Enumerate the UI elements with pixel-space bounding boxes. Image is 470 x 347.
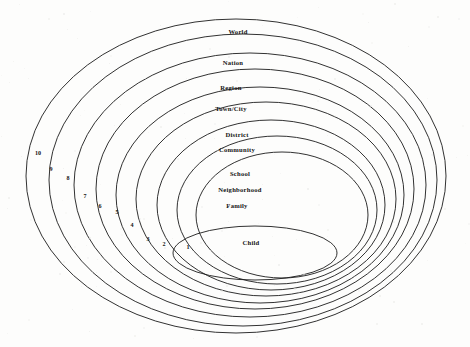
ring-label-neighborhood: Neighborhood bbox=[218, 186, 261, 193]
ring-outline-1 bbox=[173, 226, 337, 280]
ring-number-4: 4 bbox=[130, 222, 133, 228]
ring-label-community: Community bbox=[219, 146, 255, 153]
ring-numbers-group: 10987654321 bbox=[35, 150, 190, 250]
ring-label-town-city: Town/City bbox=[215, 105, 247, 112]
ring-number-9: 9 bbox=[49, 166, 52, 172]
ring-outline-2 bbox=[196, 152, 368, 278]
ring-number-5: 5 bbox=[115, 209, 118, 215]
ring-labels-group: WorldNationRegionTown/CityDistrictCommun… bbox=[215, 28, 262, 246]
ring-number-1: 1 bbox=[186, 244, 189, 250]
ring-number-7: 7 bbox=[83, 193, 86, 199]
ring-label-district: District bbox=[225, 131, 249, 138]
ring-outline-3 bbox=[177, 136, 377, 284]
ring-outline-6 bbox=[116, 87, 404, 303]
ring-label-region: Region bbox=[220, 84, 241, 91]
ring-number-3: 3 bbox=[146, 236, 149, 242]
ring-label-nation: Nation bbox=[223, 59, 244, 66]
diagram-canvas: 10987654321 WorldNationRegionTown/CityDi… bbox=[0, 0, 470, 347]
ring-number-6: 6 bbox=[98, 203, 101, 209]
ring-label-school: School bbox=[230, 170, 250, 177]
ring-label-family: Family bbox=[226, 202, 248, 209]
ring-outline-5 bbox=[136, 102, 396, 296]
ring-label-child: Child bbox=[242, 239, 259, 246]
ring-number-10: 10 bbox=[35, 150, 41, 156]
ring-outline-9 bbox=[49, 34, 437, 326]
ring-number-8: 8 bbox=[66, 175, 69, 181]
ring-outline-4 bbox=[157, 120, 385, 290]
nested-ellipses-diagram: 10987654321 WorldNationRegionTown/CityDi… bbox=[0, 0, 470, 347]
ring-outline-8 bbox=[74, 53, 426, 317]
ring-number-2: 2 bbox=[162, 241, 165, 247]
ring-label-world: World bbox=[228, 28, 247, 35]
